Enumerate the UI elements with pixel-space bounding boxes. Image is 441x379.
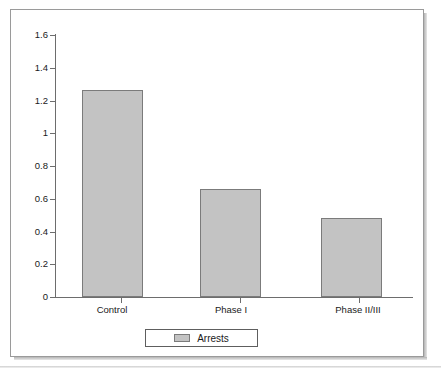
y-tick-label-5: 1 bbox=[8, 128, 48, 138]
y-tick-label-4: 0.8 bbox=[8, 161, 48, 171]
y-tick-mark-5 bbox=[50, 133, 55, 134]
y-tick-mark-6 bbox=[50, 101, 55, 102]
y-tick-label-8: 1.6 bbox=[8, 30, 48, 40]
y-tick-mark-2 bbox=[50, 232, 55, 233]
x-tick-mark-1 bbox=[240, 298, 241, 303]
bar-phase-i bbox=[200, 189, 261, 297]
y-tick-mark-0 bbox=[50, 297, 55, 298]
y-tick-label-0: 0 bbox=[8, 292, 48, 302]
y-tick-mark-3 bbox=[50, 199, 55, 200]
chart-frame: 0 0.2 0.4 0.6 0.8 1 1.2 1.4 1.6 bbox=[10, 9, 424, 357]
legend-swatch-arrests bbox=[174, 334, 190, 342]
bar-control bbox=[82, 90, 143, 297]
x-category-label-phase-i: Phase I bbox=[191, 304, 271, 316]
frame-shadow-bottom bbox=[14, 357, 427, 360]
chart-page: 0 0.2 0.4 0.6 0.8 1 1.2 1.4 1.6 bbox=[0, 0, 441, 379]
x-category-label-phase-ii-iii: Phase II/III bbox=[308, 304, 408, 316]
y-tick-label-6: 1.2 bbox=[8, 96, 48, 106]
chart-legend: Arrests bbox=[145, 329, 258, 347]
legend-label-arrests: Arrests bbox=[197, 333, 229, 344]
y-tick-mark-4 bbox=[50, 166, 55, 167]
x-tick-mark-0 bbox=[121, 298, 122, 303]
x-tick-mark-2 bbox=[359, 298, 360, 303]
y-tick-label-1: 0.2 bbox=[8, 259, 48, 269]
y-tick-mark-7 bbox=[50, 68, 55, 69]
y-tick-label-7: 1.4 bbox=[8, 63, 48, 73]
y-tick-mark-8 bbox=[50, 35, 55, 36]
bar-phase-ii-iii bbox=[321, 218, 382, 297]
page-edge-bottom bbox=[0, 366, 441, 368]
x-category-label-control: Control bbox=[72, 304, 152, 316]
frame-shadow-right bbox=[424, 13, 427, 360]
plot-area: 0 0.2 0.4 0.6 0.8 1 1.2 1.4 1.6 bbox=[11, 10, 425, 358]
y-tick-label-2: 0.4 bbox=[8, 227, 48, 237]
y-tick-label-3: 0.6 bbox=[8, 194, 48, 204]
y-axis-line bbox=[55, 34, 56, 298]
y-tick-mark-1 bbox=[50, 264, 55, 265]
